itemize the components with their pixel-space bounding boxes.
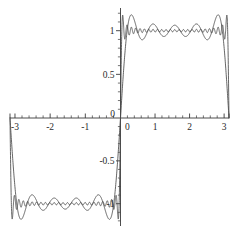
y-tick-label: -1 bbox=[107, 199, 115, 209]
x-tick-label: 3 bbox=[222, 122, 227, 132]
plot-canvas: -3-2-10123 -1-0.500.51 bbox=[0, 0, 240, 230]
y-tick-label: -0.5 bbox=[99, 156, 114, 166]
x-tick-label: -3 bbox=[11, 122, 19, 132]
y-tick-label: 0 bbox=[110, 109, 115, 119]
x-tick-label: 2 bbox=[187, 122, 192, 132]
x-tick-label: -2 bbox=[46, 122, 54, 132]
y-tick-label: 0.5 bbox=[103, 70, 115, 80]
x-tick-label: 0 bbox=[125, 122, 130, 132]
chart-figure: -3-2-10123 -1-0.500.51 bbox=[0, 0, 240, 230]
y-tick-label: 1 bbox=[110, 26, 115, 36]
x-tick-label: 1 bbox=[153, 122, 158, 132]
x-tick-label: -1 bbox=[81, 122, 89, 132]
